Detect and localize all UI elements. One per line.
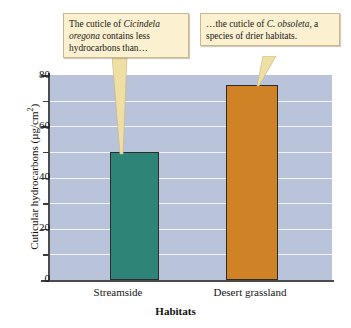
bar-desert-grassland[interactable]: [226, 85, 278, 280]
y-tick-10: [43, 254, 49, 256]
gridline-50: [50, 152, 332, 153]
y-axis-title-main: Cuticular hydrocarbons (µg/cm: [28, 112, 40, 250]
gridline-70: [50, 101, 332, 102]
y-tick-label-80: 80: [22, 69, 50, 80]
callout-left-pointer: [112, 56, 142, 156]
gridline-20: [50, 229, 332, 230]
bar-desert-grassland-face: [226, 85, 278, 280]
y-axis-title-exponent: 2: [26, 108, 35, 112]
gridline-60: [50, 126, 332, 127]
gridline-30: [50, 203, 332, 204]
x-axis-title: Habitats: [0, 305, 351, 317]
y-axis-title: Cuticular hydrocarbons (µg/cm2): [26, 82, 40, 272]
callout-left-text-before: The cuticle of: [69, 19, 123, 29]
y-tick-label-0: 0: [22, 273, 50, 284]
y-axis-title-tail: ): [28, 104, 40, 108]
bar-streamside-face: [110, 152, 159, 280]
bar-chart-figure: 80 60 40 20 0 Cuticular hydrocarbons (µg…: [0, 0, 351, 328]
y-tick-50: [43, 152, 49, 154]
gridline-40: [50, 178, 332, 179]
callout-right-pointer: [245, 56, 277, 88]
x-tick-label-streamside: Streamside: [63, 286, 173, 298]
gridline-10: [50, 254, 332, 255]
callout-desert-grassland: …the cuticle of C. obsoleta, a species o…: [200, 13, 340, 46]
callout-right-species: C. obsoleta: [267, 19, 310, 29]
callout-right-text-before: …the cuticle of: [206, 19, 267, 29]
plot-area: [50, 75, 332, 280]
callout-streamside: The cuticle of Cicindela oregona contain…: [63, 13, 189, 58]
y-tick-30: [43, 203, 49, 205]
y-axis-ticks: 80 60 40 20 0: [0, 0, 50, 328]
x-axis-line: [48, 280, 334, 282]
bar-streamside[interactable]: [110, 152, 159, 280]
x-tick-label-desert-grassland: Desert grassland: [180, 286, 320, 298]
y-tick-70: [43, 101, 49, 103]
